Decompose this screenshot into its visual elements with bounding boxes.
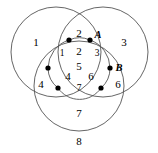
dot-bottom-left — [55, 85, 60, 90]
region-1-outer: 1 — [33, 37, 39, 48]
region-6-outer: 6 — [115, 79, 121, 90]
region-8-outer: 8 — [76, 136, 82, 147]
dot-mid-right — [107, 65, 112, 70]
right-circle — [58, 7, 148, 97]
venn-diagram-canvas — [0, 0, 158, 153]
dot-top-right — [87, 37, 92, 42]
left-circle — [11, 7, 101, 97]
region-5-center: 5 — [76, 61, 82, 72]
region-2-top: 2 — [76, 28, 82, 39]
region-7-inner: 7 — [77, 84, 82, 94]
dot-top-left — [66, 37, 71, 42]
region-2-inner: 2 — [76, 46, 82, 57]
inner-arc-right — [101, 68, 110, 88]
region-7-bottom: 7 — [76, 108, 82, 119]
point-label-a: A — [94, 30, 101, 41]
region-4-inner: 4 — [65, 71, 71, 82]
region-3-outer: 3 — [121, 37, 127, 48]
region-6-inner: 6 — [88, 71, 94, 82]
inner-arc-left — [48, 68, 58, 88]
dot-mid-left — [45, 65, 50, 70]
region-1-inner: 1 — [60, 49, 65, 59]
region-4-outer: 4 — [38, 79, 44, 90]
region-3-inner: 3 — [95, 49, 100, 59]
dot-bottom-right — [98, 85, 103, 90]
venn-diagram-figure: 1 2 3 1 2 3 4 4 5 6 6 7 7 8 A B — [0, 0, 158, 153]
point-label-b: B — [115, 63, 122, 74]
